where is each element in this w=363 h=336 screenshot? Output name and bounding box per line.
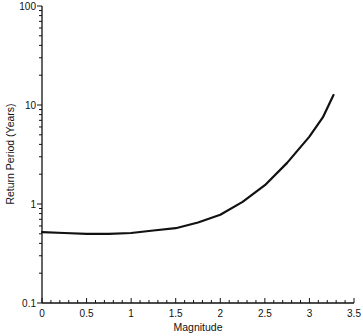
y-tick-label: 0.1: [22, 298, 36, 309]
y-tick-label: 1: [30, 199, 36, 210]
x-tick-label: 1.5: [169, 308, 183, 319]
x-axis-title: Magnitude: [173, 321, 222, 333]
x-tick-label: 1: [128, 308, 134, 319]
x-tick-label: 2.5: [258, 308, 272, 319]
y-tick-label: 100: [19, 1, 36, 12]
y-tick-label: 10: [25, 100, 37, 111]
axes: [42, 6, 354, 303]
return-period-chart: 00.511.522.533.5 0.1110100 Magnitude Ret…: [0, 0, 363, 336]
data-line: [42, 95, 334, 234]
x-tick-label: 3: [307, 308, 313, 319]
x-tick-label: 2: [218, 308, 224, 319]
y-axis-title: Return Period (Years): [4, 103, 16, 204]
x-tick-label: 0.5: [80, 308, 94, 319]
y-axis-ticks: 0.1110100: [19, 1, 42, 309]
x-tick-label: 0: [39, 308, 45, 319]
x-axis-ticks: 00.511.522.533.5: [39, 298, 361, 319]
x-tick-label: 3.5: [347, 308, 361, 319]
